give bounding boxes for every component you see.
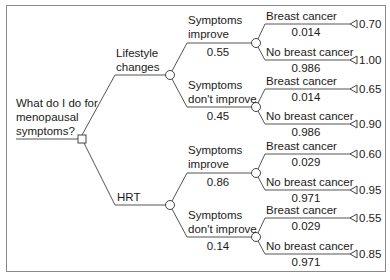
option-label-line: Lifestyle <box>116 46 159 60</box>
outcome-prob: 0.029 <box>280 155 332 169</box>
outcome-utility: 0.85 <box>359 247 381 261</box>
branch-label: Symptoms don't improve <box>188 78 257 106</box>
terminal-node-triangle <box>350 214 357 222</box>
branch-prob: 0.45 <box>188 109 248 123</box>
branch-label-line: Symptoms <box>188 78 257 92</box>
branch-label-line: improve <box>188 27 242 41</box>
outcome-label: No breast cancer <box>266 45 354 59</box>
branch-label: Symptoms don't improve <box>188 208 257 236</box>
terminal-node-triangle <box>350 20 357 28</box>
outcome-label: Breast cancer <box>266 74 337 88</box>
outcome-label: No breast cancer <box>266 109 354 123</box>
chance-node <box>252 169 261 178</box>
option-hrt-label: HRT <box>117 190 140 204</box>
outcome-prob: 0.971 <box>280 255 332 269</box>
outcome-prob: 0.029 <box>280 219 332 233</box>
outcome-label: Breast cancer <box>266 139 337 153</box>
root-question: What do I do for menopausal symptoms? <box>16 96 98 138</box>
terminal-node-triangle <box>350 150 357 158</box>
branch-prob: 0.86 <box>188 175 248 189</box>
outcome-label: No breast cancer <box>266 175 354 189</box>
terminal-node-triangle <box>350 85 357 93</box>
outcome-prob: 0.986 <box>280 125 332 139</box>
outcome-prob: 0.014 <box>280 25 332 39</box>
branch-label-line: improve <box>188 157 242 171</box>
chance-node <box>166 201 175 210</box>
chance-node <box>252 39 261 48</box>
root-question-line: menopausal <box>16 110 98 124</box>
outcome-prob: 0.986 <box>280 61 332 75</box>
branch-label-line: Symptoms <box>188 13 242 27</box>
outcome-label: Breast cancer <box>266 9 337 23</box>
branch-label-line: don't improve <box>188 92 257 106</box>
branch-label-line: don't improve <box>188 222 257 236</box>
outcome-utility: 0.90 <box>359 117 381 131</box>
option-label-line: changes <box>116 60 159 74</box>
chance-node <box>166 71 175 80</box>
outcome-label: No breast cancer <box>266 239 354 253</box>
outcome-utility: 1.00 <box>359 53 381 67</box>
outcome-utility: 0.95 <box>359 183 381 197</box>
branch-label: Symptoms improve <box>188 143 242 171</box>
root-question-line: What do I do for <box>16 96 98 110</box>
branch-label: Symptoms improve <box>188 13 242 41</box>
branch-prob: 0.55 <box>188 45 248 59</box>
branch-label-line: Symptoms <box>188 208 257 222</box>
outcome-utility: 0.70 <box>359 17 381 31</box>
outcome-utility: 0.65 <box>359 82 381 96</box>
outcome-label: Breast cancer <box>266 203 337 217</box>
option-label-line: HRT <box>117 190 140 204</box>
outcome-prob: 0.014 <box>280 90 332 104</box>
root-question-line: symptoms? <box>16 124 98 138</box>
option-lifestyle-label: Lifestyle changes <box>116 46 159 74</box>
outcome-utility: 0.60 <box>359 147 381 161</box>
branch-prob: 0.14 <box>188 239 248 253</box>
branch-label-line: Symptoms <box>188 143 242 157</box>
outcome-utility: 0.55 <box>359 211 381 225</box>
